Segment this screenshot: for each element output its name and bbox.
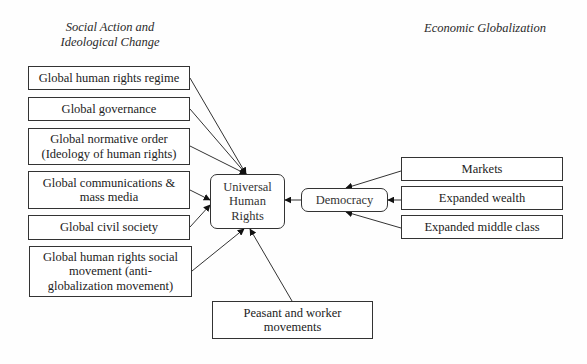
node-expanded-wealth: Expanded wealth xyxy=(401,186,563,210)
node-peasant-worker-movements: Peasant and worker movements xyxy=(212,301,373,339)
edge-social-movement-to-uhr xyxy=(192,229,244,271)
edge-peasant-to-uhr xyxy=(250,229,292,301)
node-democracy: Democracy xyxy=(301,188,388,212)
node-universal-human-rights: Universal Human Rights xyxy=(210,174,285,229)
node-global-communications: Global communications & mass media xyxy=(28,171,190,209)
node-markets: Markets xyxy=(401,157,563,181)
node-global-civil-society: Global civil society xyxy=(28,215,190,240)
node-global-governance: Global governance xyxy=(28,97,190,121)
edge-middle-class-to-democracy xyxy=(346,212,401,228)
node-expanded-middle-class: Expanded middle class xyxy=(401,215,563,239)
edge-governance-to-uhr xyxy=(190,109,246,174)
edge-markets-to-democracy xyxy=(346,171,401,188)
edge-civil-society-to-uhr xyxy=(190,205,210,227)
edge-communications-to-uhr xyxy=(190,190,210,200)
node-global-human-rights-social-movement: Global human rights social movement (ant… xyxy=(29,246,192,297)
node-global-normative-order: Global normative order (Ideology of huma… xyxy=(28,128,190,165)
node-global-human-rights-regime: Global human rights regime xyxy=(28,66,190,90)
